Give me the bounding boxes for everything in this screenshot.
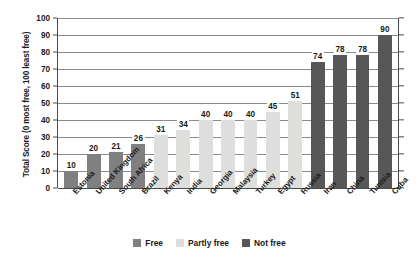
legend-swatch-icon xyxy=(176,239,184,247)
bar[interactable] xyxy=(199,120,213,188)
y-tick-label: 0 xyxy=(45,184,53,193)
legend-label: Free xyxy=(145,238,163,248)
bar-column[interactable]: 10 xyxy=(60,18,82,188)
y-tick-label: 90 xyxy=(41,31,53,40)
bar-value-label: 10 xyxy=(65,161,77,170)
y-tick-label: 50 xyxy=(41,99,53,108)
y-tick-50: 50 xyxy=(41,99,57,108)
y-tick-label: 20 xyxy=(41,150,53,159)
bar-value-label: 26 xyxy=(132,134,144,143)
y-tick-label: 80 xyxy=(41,48,53,57)
bar-column[interactable]: 78 xyxy=(351,18,373,188)
bar-column[interactable]: 40 xyxy=(194,18,216,188)
y-tick-label: 40 xyxy=(41,116,53,125)
right-tick-40 xyxy=(399,119,404,120)
plot-area: 102021263134404040455174787890 xyxy=(57,18,399,188)
y-tick-label: 70 xyxy=(41,65,53,74)
right-tick-20 xyxy=(399,153,404,154)
bar-column[interactable]: 74 xyxy=(306,18,328,188)
legend-item[interactable]: Partly free xyxy=(176,238,229,248)
legend: FreePartly freeNot free xyxy=(0,238,419,248)
legend-swatch-icon xyxy=(242,239,250,247)
legend-label: Not free xyxy=(254,238,286,248)
right-tick-100 xyxy=(399,17,404,18)
legend-item[interactable]: Not free xyxy=(242,238,286,248)
bar-value-label: 40 xyxy=(200,110,212,119)
right-tick-10 xyxy=(399,170,404,171)
bar-chart: Total Score (0 most free, 100 least free… xyxy=(0,0,419,264)
bar-value-label: 34 xyxy=(177,120,189,129)
bar-column[interactable]: 34 xyxy=(172,18,194,188)
y-tick-label: 100 xyxy=(36,14,53,23)
bar-value-label: 90 xyxy=(379,25,391,34)
bar-value-label: 45 xyxy=(267,102,279,111)
bar-series: 102021263134404040455174787890 xyxy=(58,18,398,188)
bar-column[interactable]: 45 xyxy=(262,18,284,188)
y-tick-30: 30 xyxy=(41,133,57,142)
bar-value-label: 74 xyxy=(312,52,324,61)
bar-column[interactable]: 20 xyxy=(82,18,104,188)
bar-value-label: 51 xyxy=(289,91,301,100)
legend-item[interactable]: Free xyxy=(133,238,163,248)
bar-value-label: 21 xyxy=(110,142,122,151)
right-tick-90 xyxy=(399,34,404,35)
bar-value-label: 78 xyxy=(334,45,346,54)
y-tick-100: 100 xyxy=(36,14,57,23)
right-tick-50 xyxy=(399,102,404,103)
bar-value-label: 40 xyxy=(222,110,234,119)
y-tick-label: 60 xyxy=(41,82,53,91)
bar-value-label: 20 xyxy=(88,144,100,153)
bar[interactable] xyxy=(333,55,347,188)
right-axis-ticks xyxy=(399,18,407,188)
y-tick-20: 20 xyxy=(41,150,57,159)
y-tick-label: 10 xyxy=(41,167,53,176)
bar-value-label: 31 xyxy=(155,125,167,134)
right-tick-70 xyxy=(399,68,404,69)
y-tick-label: 30 xyxy=(41,133,53,142)
legend-swatch-icon xyxy=(133,239,141,247)
y-tick-70: 70 xyxy=(41,65,57,74)
bar-value-label: 40 xyxy=(244,110,256,119)
bar-column[interactable]: 78 xyxy=(329,18,351,188)
bar-column[interactable]: 90 xyxy=(374,18,396,188)
bar[interactable] xyxy=(378,35,392,188)
right-tick-30 xyxy=(399,136,404,137)
y-tick-60: 60 xyxy=(41,82,57,91)
bar-column[interactable]: 51 xyxy=(284,18,306,188)
right-tick-60 xyxy=(399,85,404,86)
bar-column[interactable]: 40 xyxy=(239,18,261,188)
y-tick-90: 90 xyxy=(41,31,57,40)
right-tick-80 xyxy=(399,51,404,52)
bar[interactable] xyxy=(356,55,370,188)
bar[interactable] xyxy=(311,62,325,188)
y-tick-0: 0 xyxy=(45,184,57,193)
y-tick-40: 40 xyxy=(41,116,57,125)
legend-label: Partly free xyxy=(188,238,229,248)
y-tick-80: 80 xyxy=(41,48,57,57)
bar-value-label: 78 xyxy=(356,45,368,54)
y-axis-tick-labels: 1009080706050403020100 xyxy=(0,18,57,188)
bar-column[interactable]: 40 xyxy=(217,18,239,188)
y-tick-10: 10 xyxy=(41,167,57,176)
